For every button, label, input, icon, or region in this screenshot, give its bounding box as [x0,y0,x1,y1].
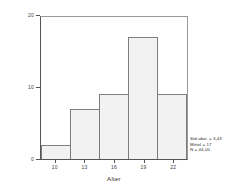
histogram-figure: 01020 1013161922 Alter Häufigkeit Std.ab… [0,0,231,194]
x-axis-tick-label: 16 [111,164,117,170]
bar [128,37,158,159]
x-axis-tick-label: 13 [81,164,87,170]
bar [99,94,129,159]
x-axis-tick-label: 19 [141,164,147,170]
stats-annotation: Std.abw. = 3,43 Mittel = 17 N = 44,00 [190,136,231,153]
y-axis-tick-label: 0 [31,156,34,162]
bar [157,94,187,159]
x-axis: 1013161922 [40,160,188,174]
x-axis-title: Alter [40,176,188,182]
bar-series [41,17,187,159]
plot-area [40,16,188,160]
x-axis-tick-mark [114,160,115,163]
x-axis-tick-label: 22 [170,164,176,170]
y-axis-tick-label: 10 [28,84,34,90]
x-axis-tick-mark [84,160,85,163]
bar [41,145,71,159]
y-axis-tick-label: 20 [28,12,34,18]
x-axis-tick-mark [144,160,145,163]
y-axis: 01020 [0,16,40,160]
x-axis-tick-mark [173,160,174,163]
stat-n: N = 44,00 [190,147,231,153]
x-axis-tick-mark [55,160,56,163]
bar [70,109,100,159]
x-axis-tick-label: 10 [52,164,58,170]
